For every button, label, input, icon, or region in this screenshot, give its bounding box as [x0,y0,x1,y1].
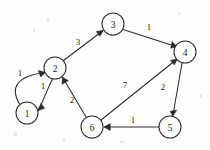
node-6[interactable]: 6 [81,116,103,138]
graph-diagram: 1 1 3 1 2 7 [0,0,210,150]
edge-6-to-2-weight: 2 [70,95,75,105]
graph-canvas: 1 1 3 1 2 7 [0,0,210,150]
node-3-label: 3 [111,20,116,30]
node-5[interactable]: 5 [159,116,181,138]
node-3[interactable]: 3 [102,13,124,35]
edge-2-to-3-weight: 3 [76,37,81,47]
node-4-label: 4 [183,48,188,58]
node-6-label: 6 [90,123,95,133]
edge-5-to-6-weight: 1 [131,115,136,125]
edge-4-to-5-weight: 2 [161,82,166,92]
edge-1-to-2-weight: 1 [18,68,23,78]
edge-3-to-4-weight: 1 [147,22,152,32]
node-1[interactable]: 1 [16,102,38,124]
node-2-label: 2 [53,64,58,74]
node-5-label: 5 [168,123,173,133]
edge-2-to-1-weight: 1 [41,81,46,91]
node-1-label: 1 [25,109,30,119]
edge-6-to-4-weight: 7 [123,80,128,90]
node-2[interactable]: 2 [44,57,66,79]
node-4[interactable]: 4 [174,41,196,63]
